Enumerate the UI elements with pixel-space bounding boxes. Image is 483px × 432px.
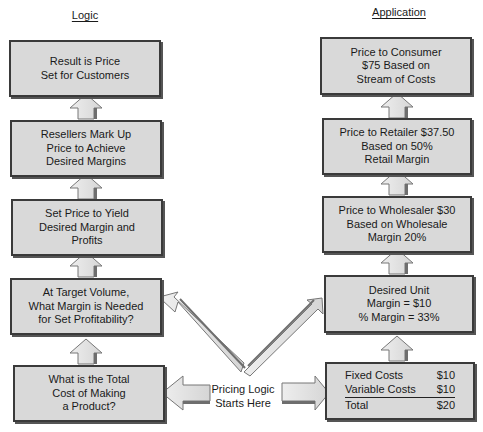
application-step-wholesaler-price: Price to Wholesaler $30 Based on Wholesa… bbox=[322, 196, 472, 253]
cost-row-total: Total $20 bbox=[345, 397, 455, 413]
cost-total-label: Total bbox=[345, 399, 368, 413]
logic-step-resellers-markup: Resellers Mark Up Price to Achieve Desir… bbox=[10, 120, 162, 177]
application-cost-box: Fixed Costs $10 Variable Costs $10 Total… bbox=[325, 362, 475, 420]
cost-row-variable: Variable Costs $10 bbox=[345, 383, 455, 397]
application-step-text: Price to Wholesaler $30 Based on Wholesa… bbox=[339, 204, 456, 245]
start-label: Pricing Logic Starts Here bbox=[202, 383, 284, 410]
cost-row-fixed: Fixed Costs $10 bbox=[345, 369, 455, 383]
logic-step-text: Set Price to Yield Desired Margin and Pr… bbox=[39, 207, 135, 248]
logic-step-set-price: Set Price to Yield Desired Margin and Pr… bbox=[11, 199, 163, 256]
logic-step-text: Result is Price Set for Customers bbox=[41, 55, 130, 82]
cost-label: Fixed Costs bbox=[345, 369, 403, 383]
application-step-text: Price to Retailer $37.50 Based on 50% Re… bbox=[340, 126, 455, 167]
application-step-text: Desired Unit Margin = $10 % Margin = 33% bbox=[358, 284, 439, 325]
application-step-retailer-price: Price to Retailer $37.50 Based on 50% Re… bbox=[322, 118, 472, 175]
cost-value: $10 bbox=[437, 383, 455, 397]
application-step-desired-margin: Desired Unit Margin = $10 % Margin = 33% bbox=[324, 275, 474, 333]
logic-step-target-volume: At Target Volume, What Margin is Needed … bbox=[10, 278, 162, 335]
cost-table: Fixed Costs $10 Variable Costs $10 Total… bbox=[345, 369, 455, 413]
logic-step-text: Resellers Mark Up Price to Achieve Desir… bbox=[41, 128, 131, 169]
logic-step-text: At Target Volume, What Margin is Needed … bbox=[29, 286, 144, 327]
logic-step-result-price: Result is Price Set for Customers bbox=[9, 40, 161, 97]
right-arrow-icon bbox=[282, 376, 329, 410]
cost-total-value: $20 bbox=[437, 399, 455, 413]
logic-step-total-cost: What is the Total Cost of Making a Produ… bbox=[13, 365, 165, 422]
application-step-consumer-price: Price to Consumer $75 Based on Stream of… bbox=[320, 37, 472, 95]
cost-value: $10 bbox=[437, 369, 455, 383]
application-step-text: Price to Consumer $75 Based on Stream of… bbox=[350, 46, 441, 87]
cost-label: Variable Costs bbox=[345, 383, 416, 397]
logic-step-text: What is the Total Cost of Making a Produ… bbox=[48, 373, 129, 414]
